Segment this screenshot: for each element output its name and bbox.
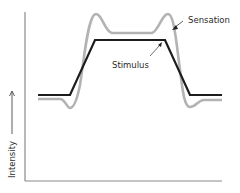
y-axis-label: Intensity — [7, 141, 17, 178]
chart: Sensation Stimulus Intensity — [0, 0, 240, 193]
stimulus-arrow — [150, 45, 160, 56]
sensation-label: Sensation — [188, 15, 230, 25]
stimulus-label: Stimulus — [112, 60, 150, 70]
